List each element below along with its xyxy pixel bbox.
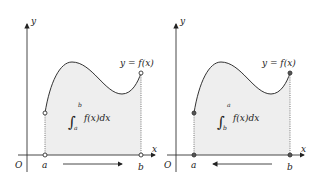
y-axis-label-right: y <box>179 16 186 26</box>
area-under-curve-left <box>45 62 141 155</box>
x-axis-label-left: x <box>152 144 157 154</box>
integrand-left: f(x)dx <box>83 113 110 123</box>
integral-lower-left: a <box>74 124 78 131</box>
curve-label-left: y = f(x) <box>119 58 154 68</box>
b-label-right: b <box>287 162 293 172</box>
b-label-left: b <box>138 162 144 172</box>
integral-upper-left: b <box>78 101 82 108</box>
point-fb-right <box>288 71 292 75</box>
point-b-left <box>139 153 143 157</box>
integral-lower-right: b <box>223 124 227 131</box>
origin-label-left: O <box>15 160 23 170</box>
integral-diagram: y x O a b y = f(x) ∫ b a f(x)dx y x O a … <box>0 0 319 179</box>
point-fa-right <box>192 111 196 115</box>
curve-label-right: y = f(x) <box>261 58 296 68</box>
origin-label-right: O <box>164 160 172 170</box>
integral-upper-right: a <box>227 101 231 108</box>
a-label-right: a <box>191 160 196 170</box>
integrand-right: f(x)dx <box>232 113 259 123</box>
y-axis-label-left: y <box>30 16 37 26</box>
point-a-right <box>192 153 196 157</box>
area-under-curve-right <box>194 62 290 155</box>
left-panel: y x O a b y = f(x) ∫ b a f(x)dx <box>15 16 157 172</box>
x-axis-label-right: x <box>301 144 306 154</box>
point-a-left <box>43 153 47 157</box>
a-label-left: a <box>42 160 47 170</box>
right-panel: y x O a b y = f(x) ∫ a b f(x)dx <box>164 16 306 172</box>
point-fb-left <box>139 71 143 75</box>
point-fa-left <box>43 111 47 115</box>
point-b-right <box>288 153 292 157</box>
